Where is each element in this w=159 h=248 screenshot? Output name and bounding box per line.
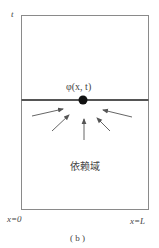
dependence-domain-diagram: t φ(x, t) 依赖域 x=0 x=L ( b ) [0, 0, 159, 248]
point-label: φ(x, t) [66, 81, 91, 93]
figure-caption: ( b ) [70, 233, 85, 243]
domain-frame [22, 16, 149, 210]
region-label: 依赖域 [70, 160, 100, 172]
t-axis-label: t [11, 9, 14, 19]
left-boundary-label: x=0 [6, 214, 22, 224]
right-boundary-label: x=L [129, 216, 145, 226]
solution-point [79, 96, 88, 105]
arrow-icon [32, 109, 63, 116]
arrow-icon [52, 115, 69, 131]
arrow-icon [103, 110, 132, 117]
arrow-icon [97, 118, 110, 131]
